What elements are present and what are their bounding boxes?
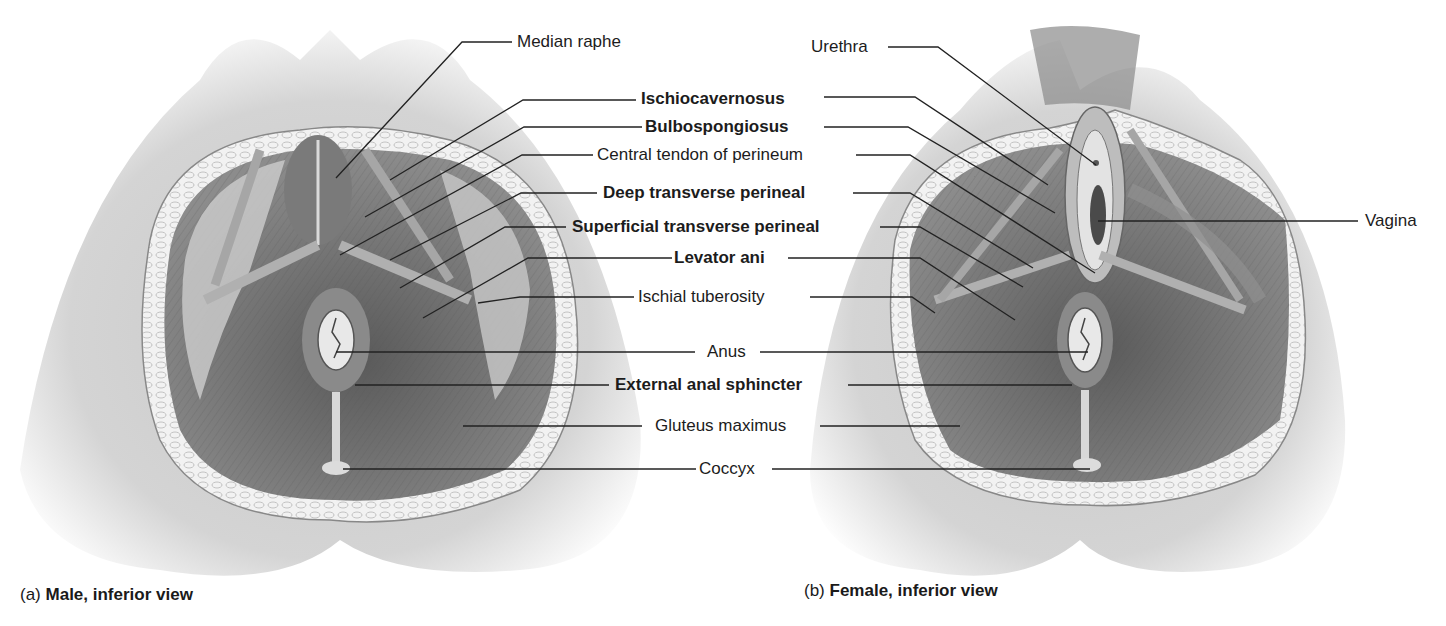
label-median-raphe: Median raphe: [517, 32, 621, 52]
caption-a-title: Male, inferior view: [46, 585, 193, 604]
label-ischiocavernosus: Ischiocavernosus: [641, 89, 785, 109]
caption-panel-a: (a) Male, inferior view: [20, 585, 193, 605]
label-deep-transverse-perineal: Deep transverse perineal: [603, 183, 805, 203]
caption-b-letter: (b): [804, 581, 825, 600]
male-illustration: [20, 30, 641, 576]
label-ischial-tuberosity: Ischial tuberosity: [638, 287, 765, 307]
label-levator-ani: Levator ani: [674, 248, 765, 268]
label-bulbospongiosus: Bulbospongiosus: [645, 117, 789, 137]
label-gluteus-maximus: Gluteus maximus: [655, 416, 786, 436]
label-anus: Anus: [707, 342, 746, 362]
perineum-muscles-figure: Median raphe Urethra Ischiocavernosus Bu…: [0, 0, 1446, 626]
caption-a-letter: (a): [20, 585, 41, 604]
caption-b-title: Female, inferior view: [830, 581, 998, 600]
caption-panel-b: (b) Female, inferior view: [804, 581, 998, 601]
label-central-tendon-of-perineum: Central tendon of perineum: [597, 145, 803, 165]
label-urethra: Urethra: [811, 37, 868, 57]
label-vagina: Vagina: [1365, 211, 1417, 231]
female-illustration: [810, 26, 1345, 576]
label-coccyx: Coccyx: [699, 459, 755, 479]
label-superficial-transverse-perineal: Superficial transverse perineal: [572, 217, 820, 237]
label-external-anal-sphincter: External anal sphincter: [615, 375, 802, 395]
